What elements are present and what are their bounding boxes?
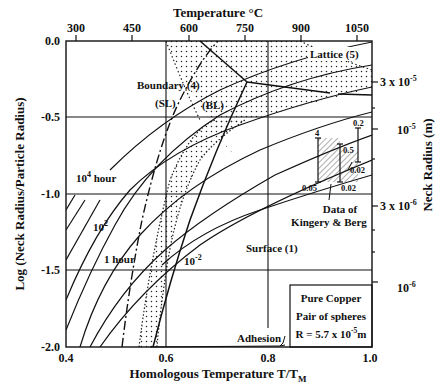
svg-text:4: 4	[315, 128, 320, 138]
label-1-hour: 1 hour	[104, 253, 135, 265]
svg-text:300: 300	[67, 21, 85, 35]
top-axis-title: Temperature °C	[173, 5, 263, 20]
svg-text:0.8: 0.8	[261, 351, 276, 365]
svg-text:0.02: 0.02	[341, 183, 356, 193]
svg-text:450: 450	[123, 21, 141, 35]
sl-label: (SL)	[155, 97, 176, 110]
svg-text:-1.5: -1.5	[41, 263, 60, 277]
surface-label: Surface (1)	[246, 242, 298, 255]
material-info-text: Pure Copper Pair of spheres R = 5.7 x 10…	[296, 292, 367, 340]
bottom-axis-tick-labels: 0.4 0.6 0.8 1.0	[59, 351, 378, 365]
lattice-label: Lattice (5)	[310, 48, 359, 61]
label-1e4-hour: 104 hour	[76, 170, 116, 184]
left-axis-tick-labels: 0.0 -0.5 -1.0 -1.5 -2.0	[41, 34, 60, 354]
svg-text:900: 900	[292, 21, 310, 35]
boundary-label: Boundary (4)	[137, 79, 200, 92]
svg-text:10-5: 10-5	[397, 122, 416, 137]
right-axis-title: Neck Radius (m)	[420, 118, 435, 211]
svg-text:Pair of spheres: Pair of spheres	[296, 310, 367, 322]
svg-text:0.6: 0.6	[159, 351, 174, 365]
bl-label: (BL)	[202, 99, 224, 112]
svg-text:0.4: 0.4	[59, 351, 74, 365]
svg-text:0.02: 0.02	[350, 165, 365, 175]
svg-text:0.0: 0.0	[45, 34, 60, 48]
svg-text:0.2: 0.2	[353, 118, 364, 128]
top-axis-tick-labels: 300 450 600 750 900 1050	[67, 21, 369, 35]
svg-text:0.5: 0.5	[343, 145, 354, 155]
label-1e-2-hour: 10-2	[184, 253, 202, 267]
svg-text:-2.0: -2.0	[41, 340, 60, 354]
svg-text:3 x 10-6: 3 x 10-6	[380, 198, 417, 213]
label-1e2-hour: 102	[93, 219, 108, 233]
kingery-berg-label-2: Kingery & Berg	[291, 216, 367, 228]
svg-text:-1.0: -1.0	[41, 187, 60, 201]
bottom-axis-title: Homologous Temperature T/TM	[129, 366, 307, 384]
svg-text:0.05: 0.05	[302, 183, 317, 193]
svg-text:10-6: 10-6	[397, 280, 416, 295]
svg-text:1.0: 1.0	[363, 351, 378, 365]
left-axis-title: Log (Neck Radius/Particle Radius)	[12, 97, 27, 290]
kingery-berg-label-1: Data of	[323, 203, 358, 215]
adhesion-label: Adhesion	[237, 332, 281, 344]
svg-text:Pure Copper: Pure Copper	[301, 292, 362, 304]
svg-text:1050: 1050	[345, 21, 369, 35]
right-axis-tick-labels: 3 x 10-5 10-5 3 x 10-6 10-6	[380, 74, 417, 295]
sintering-map-chart: Temperature °C 300 450 600 750 900 1050 …	[0, 0, 442, 391]
svg-text:-0.5: -0.5	[41, 110, 60, 124]
svg-text:750: 750	[236, 21, 254, 35]
svg-text:600: 600	[180, 21, 198, 35]
svg-text:3 x 10-5: 3 x 10-5	[380, 74, 417, 89]
boundary-dotted-band	[139, 120, 245, 347]
